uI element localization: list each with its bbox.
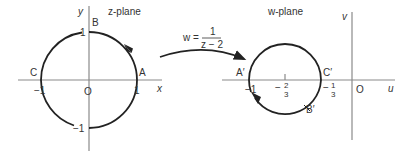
w-plane: w-plane v u O A′ −1 C′ B′ − 2 3 − 1 3 <box>222 6 395 140</box>
z-circle-arc-AB <box>89 32 137 80</box>
w-v-axis-label: v <box>342 11 348 22</box>
w-plane-title: w-plane <box>267 6 303 17</box>
point-A-label: A <box>139 67 146 78</box>
point-C-prime-label: C′ <box>323 67 332 78</box>
point-B-label: B <box>92 17 99 28</box>
z-tick-y-pos: 1 <box>80 27 86 38</box>
z-x-axis-label: x <box>156 83 163 94</box>
z-origin-label: O <box>84 86 92 97</box>
z-circle-arc-DA <box>89 80 137 128</box>
point-B-prime-label: B′ <box>306 104 315 115</box>
w-tick-minus-one-third-num: 1 <box>331 81 336 90</box>
mapping: w = 1 z − 2 <box>160 26 244 59</box>
point-C-label: C <box>30 67 37 78</box>
z-tick-y-neg: −1 <box>73 123 85 134</box>
w-tick-minus-two-thirds-num: 2 <box>284 81 289 90</box>
mapping-lhs: w = <box>182 32 199 43</box>
w-tick-minus-two-thirds-den: 3 <box>284 90 289 99</box>
z-tick-x-pos: 1 <box>134 85 140 96</box>
z-circle-arc-BC <box>41 33 82 81</box>
mapping-denominator: z − 2 <box>201 39 223 50</box>
z-plane-title: z-plane <box>108 6 141 17</box>
w-tick-minus-one-third-sign: − <box>323 82 329 93</box>
conformal-mapping-diagram: z-plane y x O B 1 A 1 C −1 −1 w = 1 z − … <box>0 0 410 159</box>
w-tick-minus-one: −1 <box>245 84 257 95</box>
z-plane: z-plane y x O B 1 A 1 C −1 −1 <box>18 6 163 151</box>
w-tick-minus-one-third-den: 3 <box>331 90 336 99</box>
mapping-numerator: 1 <box>210 26 216 37</box>
z-tick-x-neg: −1 <box>34 85 46 96</box>
w-origin-label: O <box>356 84 364 95</box>
z-circle-arc-CD <box>41 80 74 126</box>
mapping-arrow-icon <box>160 50 244 59</box>
z-y-axis-label: y <box>77 6 84 17</box>
w-tick-minus-two-thirds-sign: − <box>275 82 281 93</box>
w-u-axis-label: u <box>388 83 394 94</box>
point-A-prime-label: A′ <box>236 67 245 78</box>
